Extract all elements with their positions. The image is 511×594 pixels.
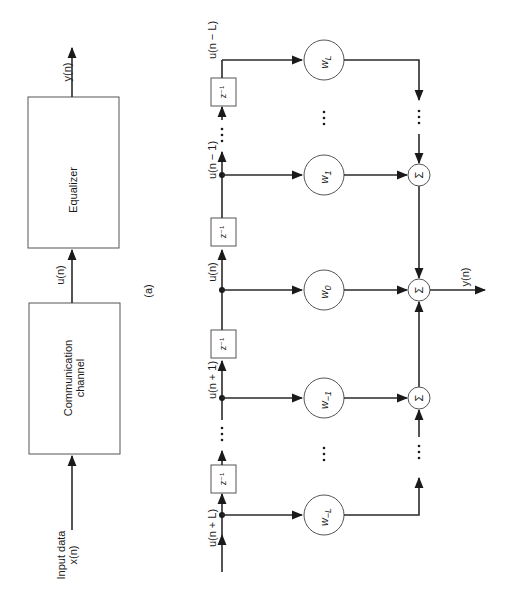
delay-label: z⁻¹ — [218, 86, 228, 99]
block-diagram-a: Equalizer Communication channel u(n) y(n… — [28, 48, 154, 579]
summer-upper: Σ — [408, 164, 430, 186]
weight-w-L: w−L — [304, 495, 344, 535]
delay-ellipsis-lower — [221, 427, 224, 442]
input-label-line2: x(n) — [67, 546, 79, 565]
svg-text:Σ: Σ — [413, 171, 425, 178]
weight-w-1: w−1 — [304, 378, 344, 418]
wL-output — [344, 60, 419, 100]
figure-a-label: (a) — [142, 284, 154, 297]
weight-w1: w1 — [304, 155, 344, 195]
delay-label: z⁻¹ — [218, 473, 228, 486]
channel-label-line1: Communication — [62, 340, 74, 416]
signal-label-u-n: u(n) — [206, 262, 218, 282]
input-label-line1: Input data — [55, 530, 67, 580]
signal-label-u-n-minus-L: u(n − L) — [206, 21, 218, 59]
svg-text:Σ: Σ — [413, 286, 425, 293]
delay-label: z⁻¹ — [218, 226, 228, 239]
yn-label: y(n) — [61, 63, 73, 82]
sum-ellipsis-lower — [418, 445, 421, 460]
weight-w0: w0 — [304, 270, 344, 310]
un-label: u(n) — [54, 265, 66, 285]
output-label: y(n) — [459, 268, 471, 287]
summer-center: Σ — [408, 279, 430, 301]
sum-ellipsis-upper — [418, 110, 421, 125]
signal-label-u-n-plus-L: u(n + L) — [206, 509, 218, 547]
delay-label: z⁻¹ — [218, 338, 228, 351]
summer-lower: Σ — [408, 387, 430, 409]
weight-ellipsis-lower — [323, 447, 326, 462]
weight-ellipsis-upper — [323, 111, 326, 126]
svg-text:Σ: Σ — [413, 394, 425, 401]
w-L-output — [344, 478, 419, 515]
equalizer-diagram: Equalizer Communication channel u(n) y(n… — [0, 0, 511, 594]
channel-label-line2: channel — [74, 359, 86, 398]
weight-wL: wL — [304, 40, 344, 80]
equalizer-label: Equalizer — [67, 167, 79, 213]
signal-label-u-n-plus-1: u(n + 1) — [206, 361, 218, 399]
delay-ellipsis-upper — [221, 128, 224, 143]
tapped-delay-line: z⁻¹ z⁻¹ z⁻¹ z⁻¹ — [206, 21, 485, 572]
signal-label-u-n-minus-1: u(n − 1) — [206, 141, 218, 179]
